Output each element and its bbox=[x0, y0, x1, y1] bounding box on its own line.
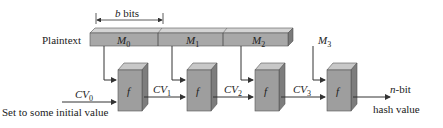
block-width-label: b bits bbox=[115, 8, 139, 19]
block-m2: M2 bbox=[252, 35, 265, 49]
cv0-label: CV0 bbox=[75, 89, 93, 103]
f-box-4 bbox=[327, 63, 357, 111]
f-label-2: f bbox=[196, 86, 199, 97]
block-m1: M1 bbox=[186, 35, 199, 49]
hash-value-label: hash value bbox=[373, 104, 420, 115]
plaintext-label: Plaintext bbox=[42, 35, 81, 46]
f-box-3 bbox=[255, 63, 285, 111]
f-box-1 bbox=[118, 63, 148, 111]
block-m0: M0 bbox=[117, 35, 130, 49]
initial-value-label: Set to some initial value bbox=[2, 107, 108, 118]
f-label-1: f bbox=[127, 86, 130, 97]
f-label-3: f bbox=[264, 86, 267, 97]
cv1-label: CV1 bbox=[153, 84, 171, 98]
output-bits-label: n-bit bbox=[390, 84, 411, 95]
cv2-label: CV2 bbox=[224, 84, 242, 98]
block-m3: M3 bbox=[318, 35, 331, 49]
f-label-4: f bbox=[336, 86, 339, 97]
cv3-label: CV3 bbox=[293, 84, 311, 98]
f-box-2 bbox=[187, 63, 217, 111]
